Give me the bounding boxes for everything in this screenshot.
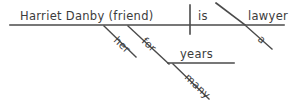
predicate-nominative-label: lawyer	[248, 9, 288, 23]
verb-label: is	[198, 9, 208, 23]
prepositional-object-label: years	[180, 47, 213, 61]
sentence-diagram-canvas: Harriet Danby (friend) is lawyer a her f…	[0, 0, 289, 101]
diagram-svg: Harriet Danby (friend) is lawyer a her f…	[0, 0, 289, 101]
subject-label: Harriet Danby (friend)	[20, 9, 154, 23]
adjective-modifier-label: many	[183, 71, 213, 101]
predicate-nominative-slant-line	[216, 3, 245, 25]
preposition-label: for	[140, 35, 160, 54]
